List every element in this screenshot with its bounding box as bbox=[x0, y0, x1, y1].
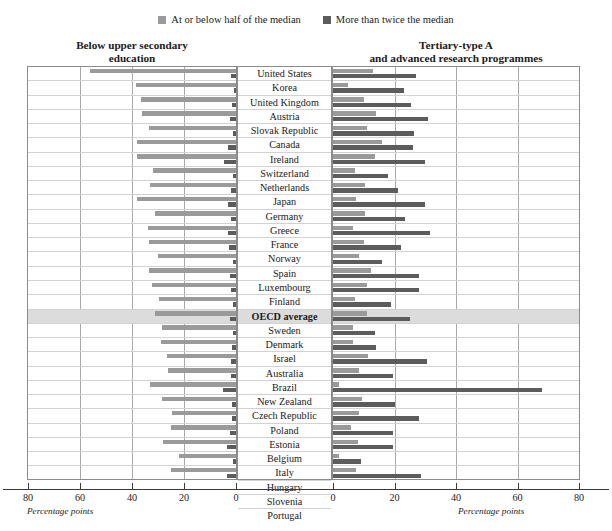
bar-row-right[interactable] bbox=[333, 153, 579, 167]
tick-left-80-label: 80 bbox=[13, 492, 43, 503]
bar-row-left[interactable] bbox=[28, 110, 236, 124]
bar-row-left[interactable] bbox=[28, 367, 236, 381]
bar-row-right[interactable] bbox=[333, 167, 579, 181]
bar-row-left[interactable] bbox=[28, 138, 236, 152]
category-label[interactable]: Greece bbox=[238, 224, 331, 238]
bar-row-right[interactable] bbox=[333, 381, 579, 395]
bar-row-left[interactable] bbox=[28, 352, 236, 366]
bar-row-left[interactable] bbox=[28, 67, 236, 81]
bar-row-right[interactable] bbox=[333, 338, 579, 352]
bar-row-left[interactable] bbox=[28, 238, 236, 252]
bar-row-left[interactable] bbox=[28, 153, 236, 167]
bar-row-left[interactable] bbox=[28, 81, 236, 95]
bar-row-right[interactable] bbox=[333, 424, 579, 438]
bar-row-left[interactable] bbox=[28, 181, 236, 195]
bar-row-right[interactable] bbox=[333, 195, 579, 209]
bar-row-right[interactable] bbox=[333, 210, 579, 224]
bar-right-more-than-twice bbox=[333, 474, 421, 478]
category-label[interactable]: Luxembourg bbox=[238, 281, 331, 295]
bar-row-right[interactable] bbox=[333, 81, 579, 95]
category-label[interactable]: United Kingdom bbox=[238, 96, 331, 110]
bar-right-at-or-below-half bbox=[333, 183, 365, 187]
bar-left-at-or-below-half bbox=[155, 211, 236, 215]
category-label[interactable]: Poland bbox=[238, 424, 331, 438]
bar-row-left[interactable] bbox=[28, 452, 236, 466]
category-label[interactable]: Belgium bbox=[238, 452, 331, 466]
category-label[interactable]: Slovak Republic bbox=[238, 124, 331, 138]
bar-row-left[interactable] bbox=[28, 424, 236, 438]
bar-right-at-or-below-half bbox=[333, 425, 351, 429]
bar-row-left[interactable] bbox=[28, 224, 236, 238]
bar-left-more-than-twice bbox=[228, 145, 236, 149]
bar-row-right[interactable] bbox=[333, 124, 579, 138]
bar-row-right[interactable] bbox=[333, 438, 579, 452]
legend-item-at-or-below-half: At or below half of the median bbox=[158, 14, 300, 25]
bar-row-left[interactable] bbox=[28, 267, 236, 281]
category-label[interactable]: Estonia bbox=[238, 438, 331, 452]
bar-row-left[interactable] bbox=[28, 167, 236, 181]
category-label[interactable]: Netherlands bbox=[238, 181, 331, 195]
category-label[interactable]: Germany bbox=[238, 210, 331, 224]
category-label[interactable]: Brazil bbox=[238, 381, 331, 395]
bar-row-right[interactable] bbox=[333, 310, 579, 324]
bar-row-left[interactable] bbox=[28, 210, 236, 224]
category-label[interactable]: France bbox=[238, 238, 331, 252]
bar-row-right[interactable] bbox=[333, 324, 579, 338]
bar-row-left[interactable] bbox=[28, 338, 236, 352]
bar-row-right[interactable] bbox=[333, 252, 579, 266]
bar-row-right[interactable] bbox=[333, 452, 579, 466]
bar-row-right[interactable] bbox=[333, 110, 579, 124]
bar-row-left[interactable] bbox=[28, 96, 236, 110]
bar-row-right[interactable] bbox=[333, 96, 579, 110]
bar-right-more-than-twice bbox=[333, 345, 376, 349]
category-label[interactable]: Switzerland bbox=[238, 167, 331, 181]
category-label[interactable]: Ireland bbox=[238, 153, 331, 167]
bar-row-left[interactable] bbox=[28, 324, 236, 338]
bar-row-left[interactable] bbox=[28, 438, 236, 452]
bar-row-left[interactable] bbox=[28, 466, 236, 480]
category-label[interactable]: OECD average bbox=[238, 310, 331, 324]
bar-row-right[interactable] bbox=[333, 352, 579, 366]
bar-left-at-or-below-half bbox=[152, 283, 237, 287]
bar-left-at-or-below-half bbox=[162, 325, 236, 329]
category-label[interactable]: Sweden bbox=[238, 324, 331, 338]
category-label[interactable]: Czech Republic bbox=[238, 409, 331, 423]
category-label[interactable]: Italy bbox=[238, 466, 331, 480]
bar-row-right[interactable] bbox=[333, 267, 579, 281]
bar-row-left[interactable] bbox=[28, 310, 236, 324]
category-label[interactable]: New Zealand bbox=[238, 395, 331, 409]
category-label[interactable]: Canada bbox=[238, 138, 331, 152]
bar-row-left[interactable] bbox=[28, 395, 236, 409]
category-label[interactable]: Korea bbox=[238, 81, 331, 95]
category-label[interactable]: Austria bbox=[238, 110, 331, 124]
bar-row-right[interactable] bbox=[333, 395, 579, 409]
bar-row-right[interactable] bbox=[333, 409, 579, 423]
bar-row-right[interactable] bbox=[333, 181, 579, 195]
bar-row-right[interactable] bbox=[333, 281, 579, 295]
bar-row-right[interactable] bbox=[333, 138, 579, 152]
category-label[interactable]: Australia bbox=[238, 367, 331, 381]
category-label[interactable]: Denmark bbox=[238, 338, 331, 352]
category-label[interactable]: Portugal bbox=[238, 509, 331, 523]
bar-row-right[interactable] bbox=[333, 466, 579, 480]
bar-row-left[interactable] bbox=[28, 124, 236, 138]
bar-left-more-than-twice bbox=[231, 359, 236, 363]
category-label[interactable]: Japan bbox=[238, 195, 331, 209]
bar-row-right[interactable] bbox=[333, 367, 579, 381]
category-label[interactable]: Finland bbox=[238, 295, 331, 309]
bar-row-left[interactable] bbox=[28, 281, 236, 295]
bar-row-right[interactable] bbox=[333, 238, 579, 252]
category-label[interactable]: Spain bbox=[238, 267, 331, 281]
bar-row-right[interactable] bbox=[333, 295, 579, 309]
bar-left-more-than-twice bbox=[232, 103, 236, 107]
bar-row-left[interactable] bbox=[28, 381, 236, 395]
bar-row-left[interactable] bbox=[28, 295, 236, 309]
bar-row-left[interactable] bbox=[28, 409, 236, 423]
bar-row-left[interactable] bbox=[28, 252, 236, 266]
bar-row-right[interactable] bbox=[333, 224, 579, 238]
category-label[interactable]: Israel bbox=[238, 352, 331, 366]
bar-row-right[interactable] bbox=[333, 67, 579, 81]
bar-row-left[interactable] bbox=[28, 195, 236, 209]
category-label[interactable]: United States bbox=[238, 67, 331, 81]
category-label[interactable]: Norway bbox=[238, 252, 331, 266]
